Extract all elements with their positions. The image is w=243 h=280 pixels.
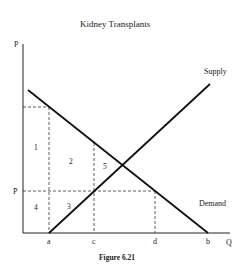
quantity-axis-label: Q: [226, 238, 232, 247]
price-axis-label: P: [14, 40, 19, 49]
region-4-label: 4: [34, 203, 38, 212]
tick-b: b: [206, 237, 210, 246]
region-2-label: 2: [69, 157, 73, 166]
supply-curve: [49, 84, 210, 233]
tick-c: c: [92, 237, 96, 246]
supply-label: Supply: [204, 67, 227, 76]
supply-demand-diagram: Kidney Transplants P Q Supply Demand P̄ …: [0, 0, 243, 280]
region-3-label: 3: [67, 202, 71, 211]
tick-a: a: [47, 237, 51, 246]
diagram-title: Kidney Transplants: [80, 19, 151, 29]
demand-label: Demand: [199, 199, 226, 208]
region-5-label: 5: [103, 162, 107, 171]
tick-d: d: [153, 237, 157, 246]
figure-caption: Figure 6.21: [99, 253, 135, 262]
region-1-label: 1: [34, 143, 38, 152]
reference-lines: [23, 107, 155, 233]
pbar-tick-label: P̄: [13, 187, 18, 196]
